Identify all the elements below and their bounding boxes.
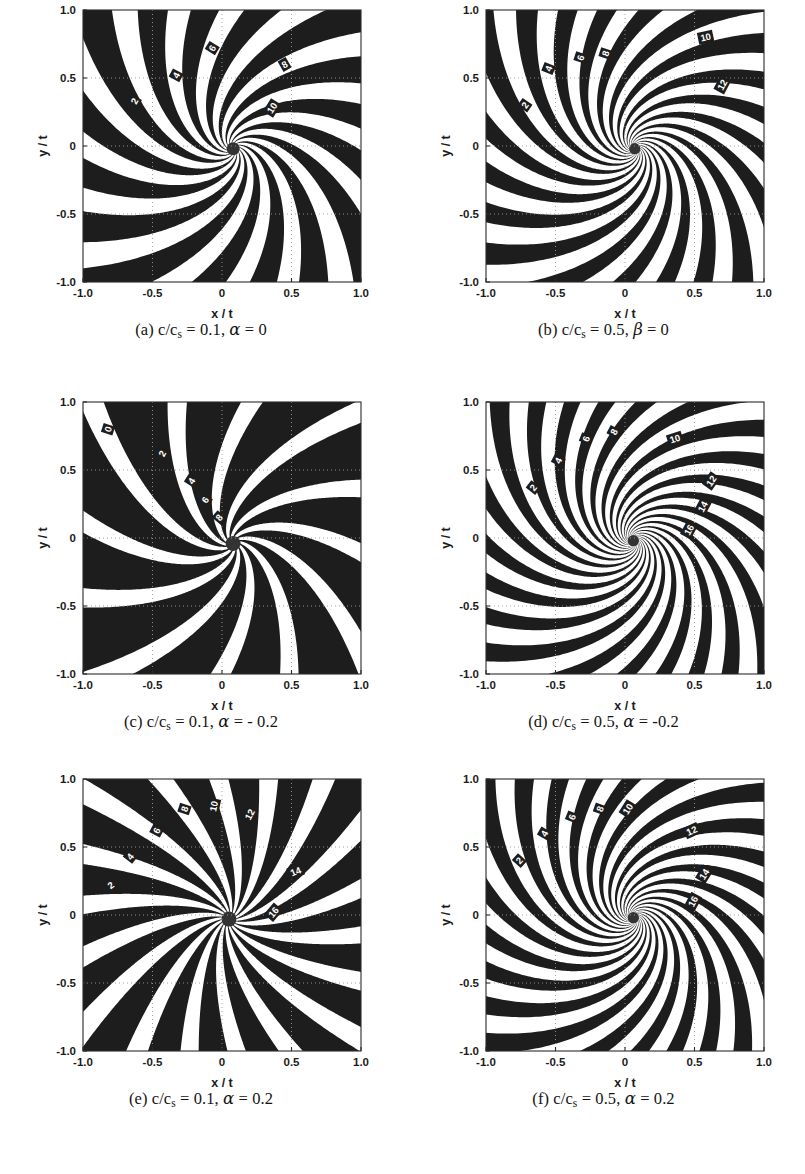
x-axis-title: x / t [211,1076,233,1089]
caption-d-value: = 0.5, [576,712,623,731]
contour-level-label: 10 [699,31,712,44]
x-tick-label: -0.5 [143,287,163,299]
contour-plot-a: 246810-1.0-0.500.51.01.00.50-0.5-1.0x / … [21,0,381,320]
caption-b-tail: = 0 [643,320,669,339]
x-axis-title: x / t [614,699,636,712]
x-tick-label: -0.5 [545,679,565,691]
x-tick-label: 1.0 [756,1056,772,1068]
y-tick-label: -1.0 [459,1045,479,1057]
caption-f-ratio: c/c [553,1089,573,1108]
x-tick-label: 1.0 [353,287,369,299]
caption-a-value: = 0.1, [182,320,229,339]
contour-core [221,912,236,927]
caption-e-ratio: c/c [152,1089,172,1108]
caption-b-prefix: (b) [538,320,558,339]
plot-area-d: 246810121416-1.0-0.500.51.01.00.50-0.5-1… [424,392,784,712]
x-tick-label: 1.0 [756,287,772,299]
y-tick-label: 1.0 [463,396,479,408]
contour-plot-d: 246810121416-1.0-0.500.51.01.00.50-0.5-1… [424,392,784,712]
plot-area-f: 246810121416-1.0-0.500.51.01.00.50-0.5-1… [424,769,784,1089]
y-tick-label: -0.5 [56,208,76,220]
contour-level-label: 10 [207,800,220,813]
x-tick-label: 0.5 [284,1056,301,1068]
x-tick-label: 0.5 [686,679,703,691]
caption-f-tail: = 0.2 [636,1089,675,1108]
caption-e-value: = 0.1, [176,1089,223,1108]
y-tick-label: -1.0 [459,276,479,288]
y-tick-label: 0.5 [60,841,77,853]
figure-panel-grid: 246810-1.0-0.500.51.01.00.50-0.5-1.0x / … [0,0,805,1174]
caption-b-value: = 0.5, [586,320,633,339]
caption-f-symbol: α [625,1089,636,1108]
contour-core [629,143,640,154]
caption-a-prefix: (a) [135,320,154,339]
y-tick-label: -0.5 [459,977,479,989]
contour-plot-e: 246810121416-1.0-0.500.51.01.00.50-0.5-1… [21,769,381,1089]
x-axis-title: x / t [211,307,233,320]
panel-a: 246810-1.0-0.500.51.01.00.50-0.5-1.0x / … [0,0,402,392]
panel-d: 246810121416-1.0-0.500.51.01.00.50-0.5-1… [402,392,805,769]
x-tick-label: 1.0 [353,1056,369,1068]
x-tick-label: 0 [621,1056,627,1068]
y-tick-label: 0 [472,532,478,544]
x-tick-label: -1.0 [73,1056,93,1068]
y-tick-label: -1.0 [56,276,76,288]
y-tick-label: 0.5 [60,72,77,84]
y-tick-label: 0 [70,532,76,544]
caption-b-symbol: β [633,320,643,339]
y-tick-label: 0 [70,140,76,152]
y-tick-label: 1.0 [60,773,76,785]
x-tick-label: -0.5 [143,1056,163,1068]
caption-d-prefix: (d) [528,712,548,731]
y-axis-title: y / t [36,134,50,156]
x-tick-label: -1.0 [476,1056,496,1068]
panel-f: 246810121416-1.0-0.500.51.01.00.50-0.5-1… [402,769,805,1174]
panel-c: 02468-1.0-0.500.51.01.00.50-0.5-1.0x / t… [0,392,402,769]
caption-c: (c) c/cs = 0.1, α = - 0.2 [124,712,278,732]
y-tick-label: -1.0 [56,668,76,680]
y-axis-title: y / t [36,526,50,548]
y-tick-label: -0.5 [459,208,479,220]
y-axis-title: y / t [439,526,453,548]
caption-e-prefix: (e) [129,1089,148,1108]
y-tick-label: 0.5 [60,464,77,476]
x-tick-label: -0.5 [143,679,163,691]
plot-area-e: 246810121416-1.0-0.500.51.01.00.50-0.5-1… [21,769,381,1089]
y-tick-label: 0.5 [463,72,480,84]
caption-a-tail: = 0 [241,320,267,339]
caption-b: (b) c/cs = 0.5, β = 0 [538,320,669,340]
panel-e: 246810121416-1.0-0.500.51.01.00.50-0.5-1… [0,769,402,1174]
x-axis-title: x / t [614,307,636,320]
x-tick-label: -1.0 [476,287,496,299]
contour-band-group [21,392,381,712]
y-axis-title: y / t [36,903,50,925]
y-tick-label: 0.5 [463,464,480,476]
contour-plot-b: 24681012-1.0-0.500.51.01.00.50-0.5-1.0x … [424,0,784,320]
y-tick-label: -0.5 [56,977,76,989]
y-tick-label: 1.0 [60,396,76,408]
x-tick-label: -1.0 [476,679,496,691]
panel-b: 24681012-1.0-0.500.51.01.00.50-0.5-1.0x … [402,0,805,392]
x-tick-label: 0.5 [686,287,703,299]
y-tick-label: 0 [472,140,478,152]
plot-area-b: 24681012-1.0-0.500.51.01.00.50-0.5-1.0x … [424,0,784,320]
x-tick-label: 0.5 [686,1056,703,1068]
y-tick-label: -1.0 [56,1045,76,1057]
contour-plot-c: 02468-1.0-0.500.51.01.00.50-0.5-1.0x / t… [21,392,381,712]
y-tick-label: -1.0 [459,668,479,680]
y-tick-label: 1.0 [60,4,76,16]
x-tick-label: 0 [219,1056,225,1068]
plot-area-a: 246810-1.0-0.500.51.01.00.50-0.5-1.0x / … [21,0,381,320]
caption-d-symbol: α [623,712,634,731]
caption-b-ratio: c/c [562,320,582,339]
contour-plot-f: 246810121416-1.0-0.500.51.01.00.50-0.5-1… [424,769,784,1089]
contour-band-group [21,769,381,1089]
caption-d-tail: = -0.2 [635,712,679,731]
y-axis-title: y / t [439,134,453,156]
y-tick-label: 0 [70,909,76,921]
x-tick-label: -0.5 [545,287,565,299]
caption-c-value: = 0.1, [171,712,218,731]
y-tick-label: 0.5 [463,841,480,853]
caption-e-symbol: α [223,1089,234,1108]
caption-c-tail: = - 0.2 [229,712,278,731]
